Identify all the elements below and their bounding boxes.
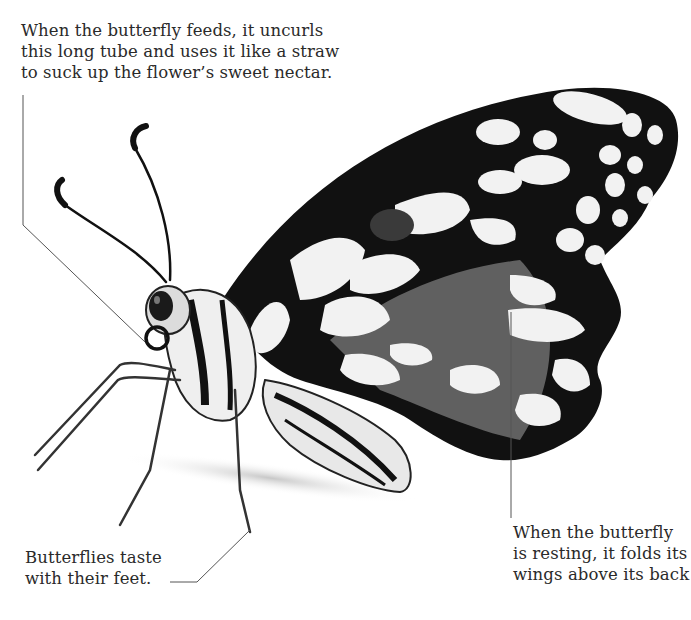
antennae <box>57 126 170 282</box>
eye <box>149 291 173 321</box>
caption-resting-wings: When the butterfly is resting, it folds … <box>513 522 691 585</box>
caption-taste-feet: Butterflies taste with their feet. <box>25 547 205 589</box>
caption-feeding-proboscis: When the butterfly feeds, it uncurls thi… <box>21 20 361 83</box>
